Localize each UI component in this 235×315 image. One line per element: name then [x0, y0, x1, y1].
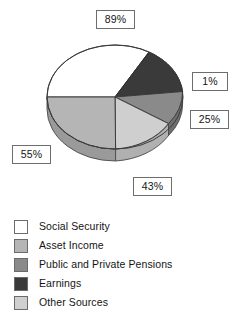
legend-item-earnings: Earnings: [14, 274, 224, 293]
callout-social-security: 89%: [96, 10, 135, 29]
legend-swatch-earnings: [14, 277, 28, 291]
legend-label-asset-income: Asset Income: [39, 240, 104, 251]
pie-slice-asset-income: [47, 97, 116, 149]
legend-item-other-sources: Other Sources: [14, 293, 224, 312]
legend-swatch-other-sources: [14, 296, 28, 310]
callout-other-sources: 43%: [133, 177, 172, 196]
legend-label-pensions: Public and Private Pensions: [39, 259, 172, 270]
pie-chart-figure: 89% 1% 25% 55% 43% Social Security Asset…: [0, 0, 235, 315]
chart-legend: Social Security Asset Income Public and …: [14, 217, 224, 312]
legend-label-other-sources: Other Sources: [39, 297, 108, 308]
callout-earnings: 1%: [192, 72, 228, 91]
callout-pensions: 25%: [190, 110, 229, 129]
legend-label-earnings: Earnings: [39, 278, 81, 289]
pie-plot-area: 89% 1% 25% 55% 43%: [0, 0, 235, 212]
legend-swatch-social-security: [14, 220, 28, 234]
legend-label-social-security: Social Security: [39, 221, 110, 232]
legend-item-social-security: Social Security: [14, 217, 224, 236]
legend-item-asset-income: Asset Income: [14, 236, 224, 255]
legend-item-pensions: Public and Private Pensions: [14, 255, 224, 274]
callout-asset-income: 55%: [12, 145, 51, 164]
legend-swatch-asset-income: [14, 239, 28, 253]
pie-chart-graphic: [0, 0, 235, 212]
legend-swatch-pensions: [14, 258, 28, 272]
